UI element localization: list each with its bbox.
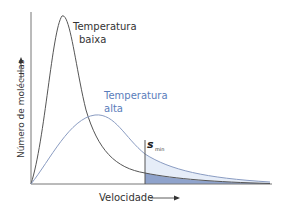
chart: Temperatura baixa Temperatura alta s min… <box>0 0 287 210</box>
high-temp-label-2: alta <box>104 103 123 114</box>
x-axis-label: Velocidade <box>99 192 153 203</box>
low-temp-label-2: baixa <box>79 34 106 45</box>
low-temp-label-1: Temperatura <box>72 21 137 32</box>
s-min-subscript: min <box>155 146 164 152</box>
x-arrow-head-icon <box>174 196 180 201</box>
high-temp-label-1: Temperatura <box>103 90 168 101</box>
s-min-label: s <box>147 138 154 151</box>
